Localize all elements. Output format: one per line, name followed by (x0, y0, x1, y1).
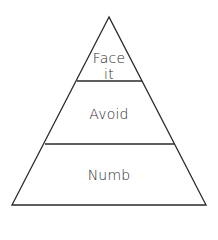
tier-bottom-label: Numb (69, 167, 149, 183)
tier-middle-label: Avoid (74, 106, 144, 122)
tier-top-label: Face it (89, 50, 129, 82)
tier-top-label-line2: it (89, 66, 129, 82)
tier-top-label-line1: Face (89, 50, 129, 66)
